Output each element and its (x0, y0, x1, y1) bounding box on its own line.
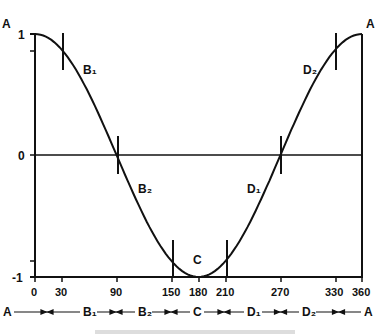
x-tick-labels: 0 30 90 150 180 210 270 330 360 (31, 286, 370, 298)
svg-text:210: 210 (216, 286, 234, 298)
cosine-phase-diagram: A A 1 0 -1 B₁ B₂ C D₁ D₂ 0 30 90 150 180… (0, 0, 383, 334)
label-c: C (193, 253, 202, 267)
svg-text:30: 30 (55, 286, 67, 298)
svg-text:B₂: B₂ (138, 305, 152, 319)
svg-text:360: 360 (352, 286, 370, 298)
label-b2: B₂ (138, 182, 152, 196)
svg-text:C: C (193, 305, 202, 319)
svg-text:180: 180 (189, 286, 207, 298)
svg-text:330: 330 (325, 286, 343, 298)
svg-text:B₁: B₁ (83, 305, 97, 319)
svg-text:D₁: D₁ (247, 305, 261, 319)
svg-text:D₂: D₂ (302, 305, 316, 319)
caption-faint (95, 330, 295, 334)
y-label-0: 0 (18, 149, 25, 163)
svg-text:270: 270 (271, 286, 289, 298)
label-d1: D₁ (247, 182, 261, 196)
svg-text:A: A (364, 305, 373, 319)
svg-text:A: A (3, 305, 12, 319)
label-a-start: A (2, 17, 11, 31)
label-a-end: A (366, 17, 375, 31)
label-d2: D₂ (303, 63, 317, 77)
label-b1: B₁ (83, 63, 97, 77)
y-label-1: 1 (18, 28, 25, 42)
svg-text:0: 0 (31, 286, 37, 298)
svg-text:90: 90 (110, 286, 122, 298)
svg-text:150: 150 (162, 286, 180, 298)
y-label-minus1: -1 (12, 271, 23, 285)
